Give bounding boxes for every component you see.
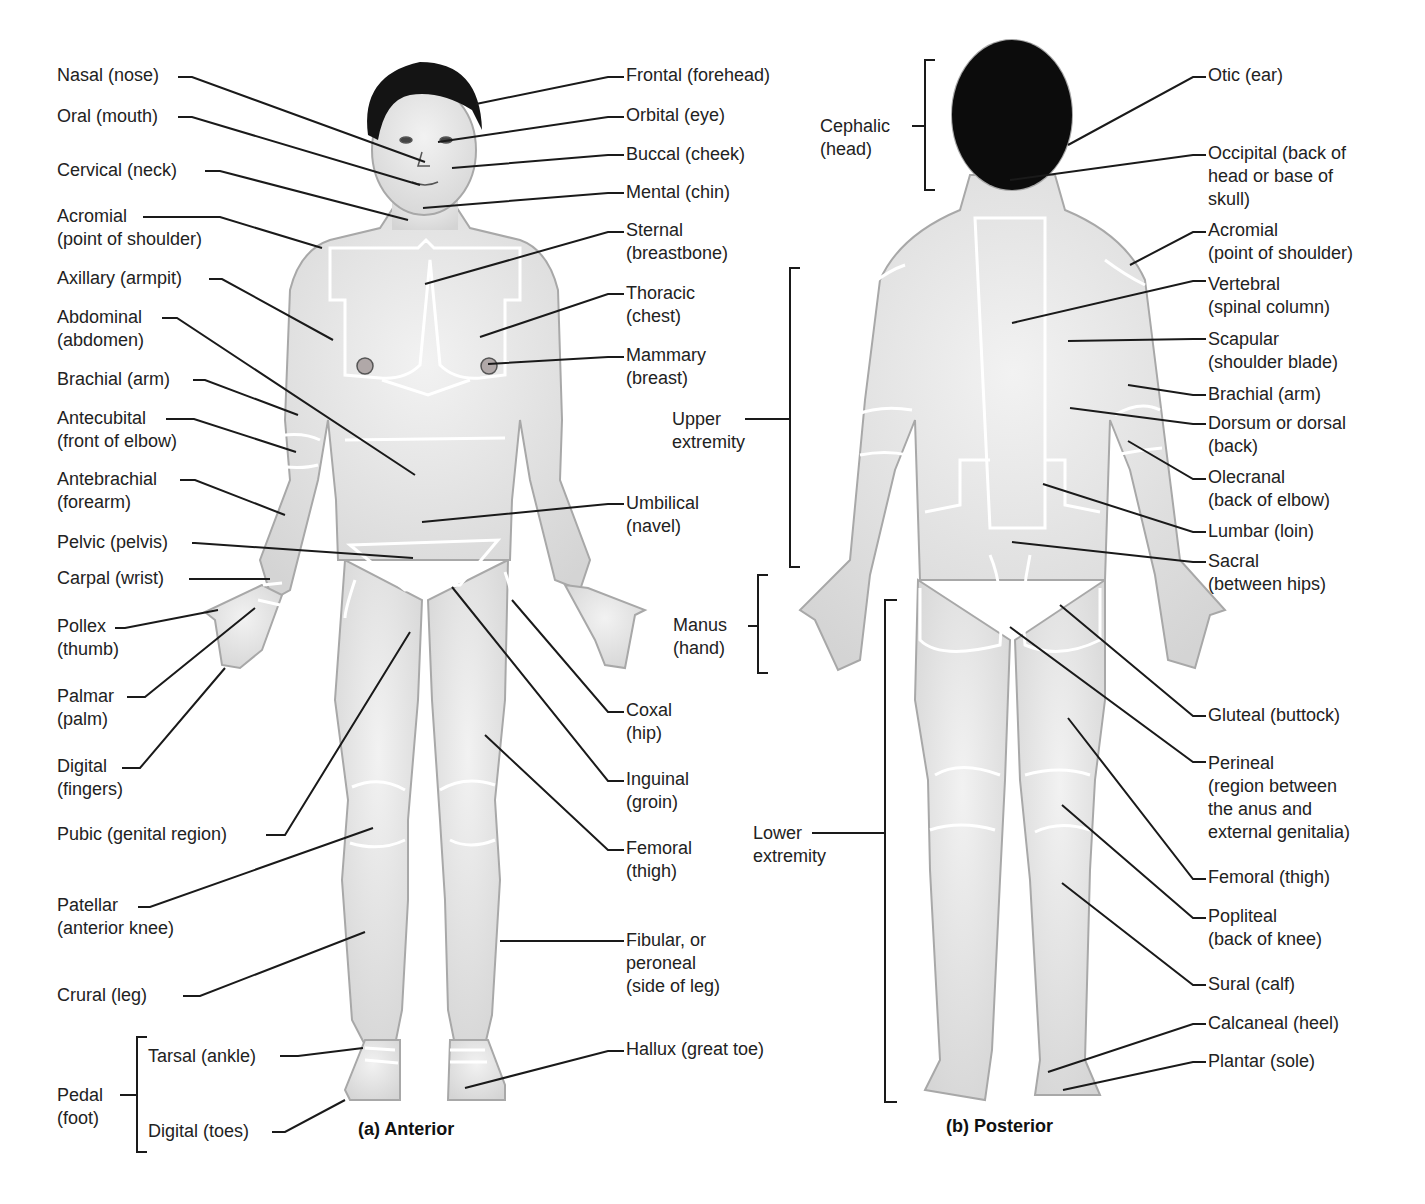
label-orbital: Orbital (eye) [626, 104, 725, 127]
label-upper-extremity-line-1: Upper [672, 408, 745, 431]
label-fibular-line-3: (side of leg) [626, 975, 720, 998]
label-popliteal-line-2: (back of knee) [1208, 928, 1322, 951]
label-vertebral-line-1: Vertebral [1208, 273, 1330, 296]
label-oral-line-1: Oral (mouth) [57, 105, 158, 128]
label-inguinal-line-2: (groin) [626, 791, 689, 814]
label-antecubital-line-1: Antecubital [57, 407, 177, 430]
label-digital-fingers-line-2: (fingers) [57, 778, 123, 801]
label-lumbar-line-1: Lumbar (loin) [1208, 520, 1314, 543]
label-fibular-line-2: peroneal [626, 952, 720, 975]
label-calcaneal: Calcaneal (heel) [1208, 1012, 1339, 1035]
label-pollex-line-2: (thumb) [57, 638, 119, 661]
label-mental-line-1: Mental (chin) [626, 181, 730, 204]
label-brachial: Brachial (arm) [57, 368, 170, 391]
label-axillary: Axillary (armpit) [57, 267, 182, 290]
label-sternal: Sternal(breastbone) [626, 219, 728, 265]
label-umbilical: Umbilical(navel) [626, 492, 699, 538]
label-pollex-line-1: Pollex [57, 615, 119, 638]
label-cervical-line-1: Cervical (neck) [57, 159, 177, 182]
label-abdominal-line-1: Abdominal [57, 306, 144, 329]
label-acromial-line-1: Acromial [57, 205, 202, 228]
label-umbilical-line-2: (navel) [626, 515, 699, 538]
label-pollex: Pollex(thumb) [57, 615, 119, 661]
label-perineal-line-1: Perineal [1208, 752, 1350, 775]
label-umbilical-line-1: Umbilical [626, 492, 699, 515]
label-lower-extremity: Lowerextremity [753, 822, 826, 868]
label-popliteal-line-1: Popliteal [1208, 905, 1322, 928]
label-occipital-line-2: head or base of [1208, 165, 1346, 188]
label-digital-fingers-line-1: Digital [57, 755, 123, 778]
label-perineal-line-4: external genitalia) [1208, 821, 1350, 844]
label-palmar-line-1: Palmar [57, 685, 114, 708]
label-patellar-line-2: (anterior knee) [57, 917, 174, 940]
label-brachial-line-1: Brachial (arm) [57, 368, 170, 391]
label-pedal: Pedal (foot) [57, 1084, 103, 1130]
label-orbital-line-1: Orbital (eye) [626, 104, 725, 127]
label-acromial-line-2: (point of shoulder) [57, 228, 202, 251]
label-antebrachial-line-2: (forearm) [57, 491, 157, 514]
label-pubic: Pubic (genital region) [57, 823, 227, 846]
label-manus-line-1: Manus [673, 614, 727, 637]
label-manus-line-2: (hand) [673, 637, 727, 660]
label-olecranal-line-1: Olecranal [1208, 466, 1330, 489]
label-olecranal-line-2: (back of elbow) [1208, 489, 1330, 512]
label-sternal-line-1: Sternal [626, 219, 728, 242]
label-gluteal: Gluteal (buttock) [1208, 704, 1340, 727]
label-coxal: Coxal(hip) [626, 699, 672, 745]
label-oral: Oral (mouth) [57, 105, 158, 128]
label-otic-line-1: Otic (ear) [1208, 64, 1283, 87]
label-fibular: Fibular, orperoneal(side of leg) [626, 929, 720, 998]
label-pelvic-line-1: Pelvic (pelvis) [57, 531, 168, 554]
label-olecranal: Olecranal(back of elbow) [1208, 466, 1330, 512]
label-perineal-line-3: the anus and [1208, 798, 1350, 821]
label-thoracic-line-2: (chest) [626, 305, 695, 328]
label-femoral-line-2: (thigh) [626, 860, 692, 883]
label-mammary-line-1: Mammary [626, 344, 706, 367]
label-hallux: Hallux (great toe) [626, 1038, 764, 1061]
label-occipital: Occipital (back ofhead or base ofskull) [1208, 142, 1346, 211]
label-acromial: Acromial(point of shoulder) [57, 205, 202, 251]
label-digital-toes: Digital (toes) [148, 1120, 249, 1143]
label-coxal-line-1: Coxal [626, 699, 672, 722]
label-inguinal-line-1: Inguinal [626, 768, 689, 791]
label-upper-extremity: Upperextremity [672, 408, 745, 454]
label-mammary: Mammary(breast) [626, 344, 706, 390]
label-fibular-line-1: Fibular, or [626, 929, 720, 952]
label-occipital-line-1: Occipital (back of [1208, 142, 1346, 165]
label-plantar: Plantar (sole) [1208, 1050, 1315, 1073]
label-acromial-p: Acromial(point of shoulder) [1208, 219, 1353, 265]
label-antecubital: Antecubital(front of elbow) [57, 407, 177, 453]
label-sternal-line-2: (breastbone) [626, 242, 728, 265]
label-dorsum: Dorsum or dorsal(back) [1208, 412, 1346, 458]
label-hallux-line-1: Hallux (great toe) [626, 1038, 764, 1061]
label-palmar-line-2: (palm) [57, 708, 114, 731]
label-sural-line-1: Sural (calf) [1208, 973, 1295, 996]
anterior-figure [205, 85, 645, 1100]
label-carpal-line-1: Carpal (wrist) [57, 567, 164, 590]
label-coxal-line-2: (hip) [626, 722, 672, 745]
label-axillary-line-1: Axillary (armpit) [57, 267, 182, 290]
label-cephalic-line-1: Cephalic [820, 115, 890, 138]
label-acromial-p-line-2: (point of shoulder) [1208, 242, 1353, 265]
label-popliteal: Popliteal(back of knee) [1208, 905, 1322, 951]
label-nasal: Nasal (nose) [57, 64, 159, 87]
label-otic: Otic (ear) [1208, 64, 1283, 87]
label-patellar: Patellar(anterior knee) [57, 894, 174, 940]
label-frontal-line-1: Frontal (forehead) [626, 64, 770, 87]
label-acromial-p-line-1: Acromial [1208, 219, 1353, 242]
label-frontal: Frontal (forehead) [626, 64, 770, 87]
label-gluteal-line-1: Gluteal (buttock) [1208, 704, 1340, 727]
label-brachial-p-line-1: Brachial (arm) [1208, 383, 1321, 406]
label-buccal-line-1: Buccal (cheek) [626, 143, 745, 166]
label-upper-extremity-line-2: extremity [672, 431, 745, 454]
label-femoral-line-1: Femoral [626, 837, 692, 860]
label-mammary-line-2: (breast) [626, 367, 706, 390]
label-tarsal: Tarsal (ankle) [148, 1045, 256, 1068]
label-scapular-line-1: Scapular [1208, 328, 1338, 351]
label-abdominal: Abdominal(abdomen) [57, 306, 144, 352]
label-cervical: Cervical (neck) [57, 159, 177, 182]
label-cephalic: Cephalic(head) [820, 115, 890, 161]
label-antecubital-line-2: (front of elbow) [57, 430, 177, 453]
label-scapular-line-2: (shoulder blade) [1208, 351, 1338, 374]
label-perineal: Perineal(region betweenthe anus andexter… [1208, 752, 1350, 844]
